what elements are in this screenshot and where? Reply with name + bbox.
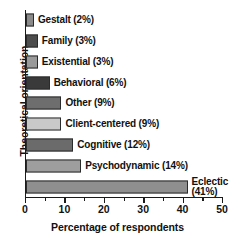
bar-value-label: Family (3%) — [42, 36, 96, 47]
bar — [26, 14, 34, 27]
bar-value-label: Eclectic (41%) — [192, 176, 235, 197]
x-tick-label: 20 — [89, 203, 119, 215]
bar-row: Psychodynamic (14%) — [26, 155, 223, 176]
bar — [26, 139, 73, 152]
bar-row: Gestalt (2%) — [26, 10, 223, 31]
x-tick-minor — [202, 197, 203, 201]
x-tick-minor — [124, 197, 125, 201]
bar — [26, 76, 50, 89]
bar — [26, 55, 38, 68]
bar — [26, 35, 38, 48]
bar-row: Existential (3%) — [26, 52, 223, 73]
plot-area: Gestalt (2%)Family (3%)Existential (3%)B… — [25, 10, 223, 198]
bar-value-label: Client-centered (9%) — [65, 119, 159, 130]
bar-value-label: Psychodynamic (14%) — [85, 161, 188, 172]
bar — [26, 180, 188, 193]
x-axis-title: Percentage of respondents — [0, 221, 235, 233]
bar-value-label: Behavioral (6%) — [54, 77, 127, 88]
x-tick-label: 50 — [207, 203, 235, 215]
bar-value-label: Existential (3%) — [42, 57, 114, 68]
bar-chart: Theoretical orientation Gestalt (2%)Fami… — [0, 0, 235, 240]
x-tick-label: 30 — [128, 203, 158, 215]
bar-value-label: Other (9%) — [65, 98, 114, 109]
bar — [26, 118, 61, 131]
bar-row: Client-centered (9%) — [26, 114, 223, 135]
bar — [26, 159, 81, 172]
bar-row: Other (9%) — [26, 93, 223, 114]
bar-row: Behavioral (6%) — [26, 72, 223, 93]
bar-value-label: Cognitive (12%) — [77, 140, 150, 151]
x-tick-minor — [163, 197, 164, 201]
x-tick-minor — [45, 197, 46, 201]
bar-row: Cognitive (12%) — [26, 135, 223, 156]
bar — [26, 97, 61, 110]
bar-row: Family (3%) — [26, 31, 223, 52]
x-tick-label: 0 — [10, 203, 40, 215]
x-axis-tick-labels: 01020304050 — [0, 203, 235, 217]
x-tick-label: 10 — [49, 203, 79, 215]
x-tick-label: 40 — [168, 203, 198, 215]
bar-value-label: Gestalt (2%) — [38, 15, 94, 26]
bar-row: Eclectic (41%) — [26, 176, 223, 197]
x-tick-minor — [84, 197, 85, 201]
